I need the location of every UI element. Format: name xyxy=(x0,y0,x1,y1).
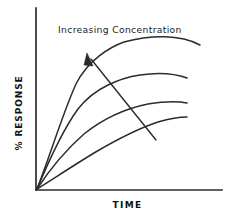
response-curve-2 xyxy=(37,74,187,189)
response-curve-3 xyxy=(37,102,187,189)
increasing-concentration-arrow-shaft xyxy=(91,59,156,140)
y-axis-label: % RESPONSE xyxy=(14,63,24,163)
increasing-concentration-label: Increasing Concentration xyxy=(58,24,182,35)
x-axis-label: TIME xyxy=(0,200,237,210)
chart-figure: Increasing Concentration % RESPONSE TIME xyxy=(0,0,237,217)
